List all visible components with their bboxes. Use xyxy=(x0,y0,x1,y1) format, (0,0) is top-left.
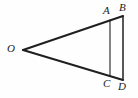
geometry-figure: O A B C D xyxy=(0,0,138,98)
vertex-label-O: O xyxy=(7,43,15,54)
vertex-label-C: C xyxy=(103,78,110,89)
segment-OD xyxy=(23,50,123,80)
segment-OB xyxy=(23,16,123,50)
vertex-label-B: B xyxy=(119,2,126,13)
vertex-label-A: A xyxy=(103,5,110,16)
vertex-label-D: D xyxy=(118,81,126,92)
